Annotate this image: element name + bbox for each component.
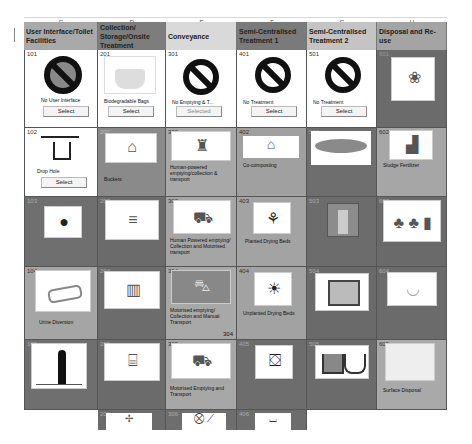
- select-button[interactable]: Select: [41, 177, 87, 188]
- option-604[interactable]: 604 ◡: [377, 267, 447, 340]
- option-601[interactable]: 601 ❀: [377, 50, 447, 128]
- plants-icon: ♣ ♣ ▮: [383, 200, 441, 242]
- pond-icon: [311, 131, 371, 165]
- option-205[interactable]: 205 ⌸: [98, 340, 166, 410]
- tank-icon: ▥: [104, 271, 160, 309]
- chamber-icon: ⌸: [104, 343, 160, 381]
- option-label: No Treatment: [313, 99, 343, 105]
- option-303[interactable]: 303 ⛟ Human Powered emptying/ Collection…: [166, 197, 237, 267]
- watering-can-icon: ❀: [391, 57, 435, 101]
- option-402[interactable]: 402 ⌂ Co-composting: [237, 128, 307, 197]
- option-number: 101: [27, 51, 37, 57]
- option-label: Motorised emptying/ Collection and Manua…: [170, 307, 234, 325]
- bucket-icon: ⌂: [105, 133, 157, 163]
- squat-icon: ●: [44, 206, 82, 238]
- option-102[interactable]: 102 Drop Hole Select: [24, 128, 98, 197]
- header-disposal-reuse: Disposal and Re-use: [377, 22, 447, 50]
- option-number: 401: [239, 51, 249, 57]
- option-label: Unplanted Drying Beds: [243, 310, 294, 316]
- settler-icon: [315, 345, 369, 379]
- option-401[interactable]: 401 No Treatment Select: [237, 50, 307, 128]
- option-label: Planted Drying Beds: [245, 238, 291, 244]
- option-label: Biodegradable Bags: [104, 98, 149, 104]
- option-203[interactable]: 203 ≡: [98, 197, 166, 267]
- option-404[interactable]: 404 ☀ Unplanted Drying Beds: [237, 267, 307, 340]
- option-302[interactable]: 302 ♜ Human-powered emptying/collection …: [166, 128, 237, 197]
- transfer-icon: ⛒ ⟋: [182, 413, 226, 430]
- option-number: 406: [239, 411, 249, 417]
- option-number: 403: [239, 198, 249, 204]
- header-collection-storage: Collection/ Storage/Onsite Treatment: [98, 22, 166, 50]
- option-label: Urine Diversion: [39, 319, 73, 325]
- option-label: No Treatment: [243, 99, 273, 105]
- option-number: 501: [309, 51, 319, 57]
- option-label: No User Interface: [41, 97, 80, 103]
- composting-icon: ⌂: [243, 136, 299, 158]
- option-505[interactable]: 505: [307, 340, 377, 410]
- drop-hole-icon: [37, 132, 83, 164]
- truck-icon: ⛟: [173, 200, 231, 234]
- option-602[interactable]: 602 ▟ Sludge Fertilizer: [377, 128, 447, 197]
- option-306[interactable]: 306 ⛒ ⟋: [166, 410, 237, 430]
- option-number: 402: [239, 129, 249, 135]
- option-301[interactable]: 301 No Emptying & T... Selected: [166, 50, 237, 128]
- option-number: 503: [309, 198, 319, 204]
- vehicle-icon: ⛍: [171, 270, 231, 304]
- option-305[interactable]: 305 ⛟ Motorised Emptying and Transport: [166, 340, 237, 410]
- option-101[interactable]: 101 No User Interface Select: [24, 50, 98, 128]
- option-501[interactable]: 501 No Treatment Select: [307, 50, 377, 128]
- option-104[interactable]: 104 Urine Diversion: [24, 267, 98, 340]
- human-emptying-icon: ♜: [171, 131, 231, 161]
- select-button[interactable]: Select: [43, 106, 89, 117]
- select-button[interactable]: Select: [108, 106, 154, 117]
- infiltration-icon: ◡: [387, 272, 437, 306]
- option-403[interactable]: 403 ⚘ Planted Drying Beds: [237, 197, 307, 267]
- option-label: No Emptying & T...: [172, 99, 213, 105]
- option-504[interactable]: 504: [307, 267, 377, 340]
- option-label: Co-composting: [243, 162, 277, 168]
- planted-bed-icon: ⚘: [253, 202, 291, 234]
- pump-truck-icon: ⛟: [171, 343, 231, 379]
- option-605[interactable]: 605 Surface Disposal: [377, 340, 447, 410]
- fertilizer-icon: ▟: [389, 130, 433, 160]
- option-105[interactable]: 105: [24, 340, 98, 410]
- filter-icon: [315, 273, 369, 311]
- option-number: 301: [168, 51, 178, 57]
- surface-icon: [385, 343, 435, 381]
- selected-button[interactable]: Selected: [176, 106, 222, 117]
- option-201[interactable]: 201 Biodegradable Bags Select: [98, 50, 166, 128]
- header-user-interface: User Interface/Toilet Facilities: [24, 22, 98, 50]
- option-502[interactable]: 502: [307, 128, 377, 197]
- prohibited-icon: [183, 59, 219, 95]
- select-button[interactable]: Select: [251, 106, 297, 117]
- row-divider: [14, 28, 15, 42]
- option-103[interactable]: 103 ●: [24, 197, 98, 267]
- option-204[interactable]: 204 ▥: [98, 267, 166, 340]
- option-label: Motorised Emptying and Transport: [170, 385, 234, 397]
- select-button[interactable]: Select: [321, 106, 367, 117]
- prohibited-icon: [255, 57, 291, 93]
- drying-icon: ⛋: [255, 345, 293, 379]
- reactor-icon: [327, 203, 359, 237]
- option-label: Human Powered emptying/ Collection and M…: [170, 237, 234, 255]
- option-number: 103: [27, 198, 37, 204]
- bag-icon: [104, 56, 156, 94]
- option-number: 602: [379, 129, 389, 135]
- option-206[interactable]: 206 ✢: [98, 410, 166, 430]
- option-406[interactable]: 406 ⌴: [237, 410, 307, 430]
- header-conveyance: Conveyance: [166, 22, 237, 50]
- option-number: 404: [239, 268, 249, 274]
- header-semi-centralised-2: Semi-Centralised Treatment 2: [307, 22, 377, 50]
- trench-icon: ≡: [105, 200, 159, 240]
- prohibited-icon: [325, 57, 361, 93]
- option-label: Buckets: [104, 176, 122, 182]
- option-503[interactable]: 503: [307, 197, 377, 267]
- option-202[interactable]: 202 ⌂ Buckets: [98, 128, 166, 197]
- option-label: Human-powered emptying/collection & tran…: [170, 164, 232, 182]
- bed-icon: ⌴: [255, 413, 291, 430]
- option-304[interactable]: 304 ⛍ Motorised emptying/ Collection and…: [166, 267, 237, 340]
- option-405[interactable]: 405 ⛋: [237, 340, 307, 410]
- option-603[interactable]: 603 ♣ ♣ ▮: [377, 197, 447, 267]
- option-label: Drop Hole: [37, 168, 60, 174]
- option-number: 405: [239, 341, 249, 347]
